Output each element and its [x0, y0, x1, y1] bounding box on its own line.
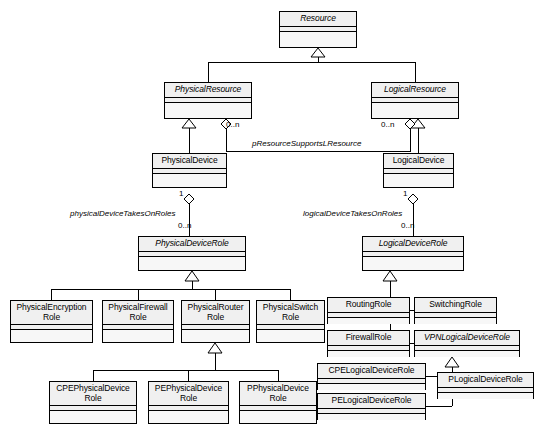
generalization-physicalresource-physicaldevice: [182, 119, 196, 153]
class-operations-physical-device: [153, 174, 226, 188]
class-name-routing-role: RoutingRole: [328, 298, 409, 313]
multiplicity-logicalresource-0n: 0..n: [381, 120, 394, 129]
class-operations-resource: [280, 32, 356, 48]
class-physical-device[interactable]: PhysicalDevice: [152, 153, 227, 188]
class-operations-cpe-logical-device-role: [318, 384, 425, 390]
generalization-arrow-resource: [311, 48, 325, 57]
class-vpn-logical-device-role[interactable]: VPNLogicalDeviceRole: [414, 330, 520, 357]
class-name-pe-logical-device-role: PELogicalDeviceRole: [318, 394, 425, 409]
class-operations-physical-encryption-role: [11, 330, 92, 342]
class-logical-device[interactable]: LogicalDevice: [383, 153, 454, 188]
generalization-arrow-physicalrouterrole: [208, 343, 222, 353]
class-physical-firewall-role[interactable]: PhysicalFirewall Role: [102, 300, 174, 343]
aggregation-diamond-physicaldevice: [184, 194, 194, 204]
multiplicity-logicaldevicerole-0n: 0..n: [401, 221, 414, 230]
class-resource[interactable]: Resource: [279, 11, 357, 48]
generalization-physicalrouterrole-children: [93, 343, 278, 381]
class-name-firewall-role: FirewallRole: [328, 331, 409, 346]
generalization-resource-children: [208, 48, 415, 82]
generalization-arrow-logicaldevicerole: [383, 271, 397, 281]
class-name-logical-device-role: LogicalDeviceRole: [363, 237, 463, 252]
class-operations-physical-device-role: [139, 257, 245, 271]
generalization-arrow-physicalresource: [182, 119, 196, 128]
edge-physicalresource-to-resource: [208, 62, 318, 82]
class-name-physical-switch-role: PhysicalSwitch Role: [257, 301, 324, 325]
aggregation-diamond-logicaldevice: [408, 194, 418, 204]
class-operations-logical-device-role: [363, 257, 463, 271]
class-name-vpn-logical-device-role: VPNLogicalDeviceRole: [415, 331, 519, 346]
class-switching-role[interactable]: SwitchingRole: [414, 297, 497, 324]
class-name-physical-router-role: PhysicalRouter Role: [182, 301, 249, 325]
class-cpe-physical-device-role[interactable]: CPEPhysicalDevice Role: [49, 381, 137, 424]
class-operations-p-physical-device-role: [240, 411, 316, 423]
class-cpe-logical-device-role[interactable]: CPELogicalDeviceRole: [317, 363, 426, 390]
generalization-arrow-vpnlogicaldevicerole: [445, 357, 459, 367]
class-name-logical-device: LogicalDevice: [384, 154, 453, 169]
association-label-physicaldevice-takesonroles: physicalDeviceTakesOnRoles: [70, 209, 176, 218]
class-physical-router-role[interactable]: PhysicalRouter Role: [181, 300, 250, 343]
class-name-physical-device-role: PhysicalDeviceRole: [139, 237, 245, 252]
class-pe-physical-device-role[interactable]: PEPhysicalDevice Role: [148, 381, 229, 424]
class-name-cpe-logical-device-role: CPELogicalDeviceRole: [318, 364, 425, 379]
uml-class-diagram: Resource PhysicalResource LogicalResourc…: [0, 0, 540, 424]
class-name-logical-resource: LogicalResource: [372, 83, 458, 98]
class-operations-routing-role: [328, 318, 409, 324]
class-physical-switch-role[interactable]: PhysicalSwitch Role: [256, 300, 325, 343]
generalization-arrow-physicaldevicerole: [185, 271, 199, 281]
class-logical-resource[interactable]: LogicalResource: [371, 82, 459, 119]
class-name-cpe-physical-device-role: CPEPhysicalDevice Role: [50, 382, 136, 406]
edge-logicalresource-to-resource: [318, 62, 415, 82]
class-physical-resource[interactable]: PhysicalResource: [164, 82, 252, 119]
association-label-logicaldevice-takesonroles: logicalDeviceTakesOnRoles: [303, 209, 402, 218]
aggregation-diamond-logicalresource: [405, 119, 415, 129]
generalization-arrow-logicalresource: [411, 119, 425, 128]
class-name-physical-device: PhysicalDevice: [153, 154, 226, 169]
class-routing-role[interactable]: RoutingRole: [327, 297, 410, 324]
class-operations-logical-device: [384, 174, 453, 188]
multiplicity-physicalresource-0n: 0..n: [226, 120, 239, 129]
class-name-p-physical-device-role: PPhysicalDevice Role: [240, 382, 316, 406]
multiplicity-physicaldevice-1: 1: [179, 189, 183, 198]
class-pe-logical-device-role[interactable]: PELogicalDeviceRole: [317, 393, 426, 420]
class-operations-firewall-role: [328, 351, 409, 357]
class-name-switching-role: SwitchingRole: [415, 298, 496, 313]
class-operations-physical-firewall-role: [103, 330, 173, 342]
class-name-physical-resource: PhysicalResource: [165, 83, 251, 98]
class-operations-physical-resource: [165, 103, 251, 119]
multiplicity-logicaldevice-1: 1: [403, 189, 407, 198]
class-operations-switching-role: [415, 318, 496, 324]
class-operations-pe-physical-device-role: [149, 411, 228, 423]
class-physical-encryption-role[interactable]: PhysicalEncryption Role: [10, 300, 93, 343]
class-logical-device-role[interactable]: LogicalDeviceRole: [362, 236, 464, 271]
class-firewall-role[interactable]: FirewallRole: [327, 330, 410, 357]
class-name-physical-encryption-role: PhysicalEncryption Role: [11, 301, 92, 325]
class-name-resource: Resource: [280, 12, 356, 27]
association-label-presource-supports-lresource: pResourceSupportsLResource: [252, 139, 361, 148]
class-name-pe-physical-device-role: PEPhysicalDevice Role: [149, 382, 228, 406]
class-physical-device-role[interactable]: PhysicalDeviceRole: [138, 236, 246, 271]
class-operations-pe-logical-device-role: [318, 414, 425, 420]
class-p-physical-device-role[interactable]: PPhysicalDevice Role: [239, 381, 317, 424]
multiplicity-physicaldevicerole-0n: 0..n: [178, 221, 191, 230]
generalization-physicaldevicerole-children: [51, 271, 290, 300]
class-operations-physical-switch-role: [257, 330, 324, 342]
class-operations-p-logical-device-role: [438, 393, 533, 399]
class-operations-physical-router-role: [182, 330, 249, 342]
class-name-physical-firewall-role: PhysicalFirewall Role: [103, 301, 173, 325]
class-operations-cpe-physical-device-role: [50, 411, 136, 423]
generalization-logicalresource-logicaldevice: [411, 119, 425, 153]
class-operations-logical-resource: [372, 103, 458, 119]
class-p-logical-device-role[interactable]: PLogicalDeviceRole: [437, 372, 534, 399]
class-operations-vpn-logical-device-role: [415, 351, 519, 357]
class-name-p-logical-device-role: PLogicalDeviceRole: [438, 373, 533, 388]
